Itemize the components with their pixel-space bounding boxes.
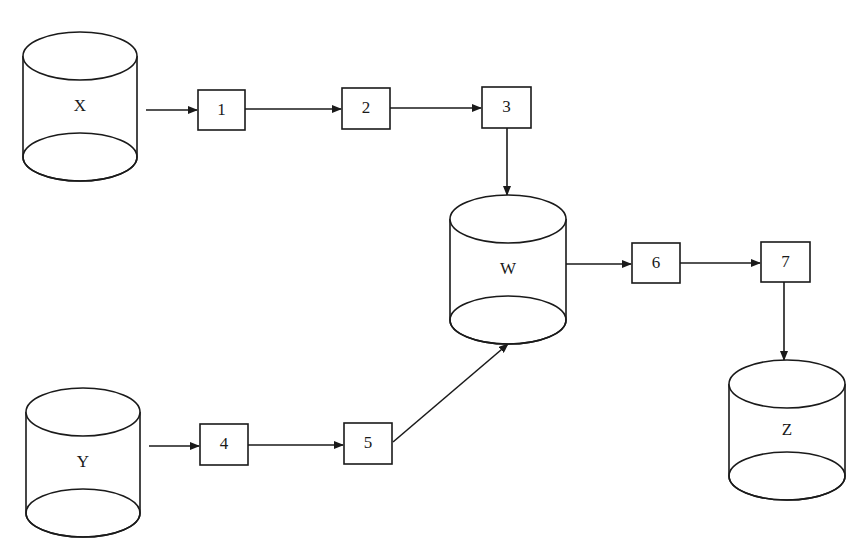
process-label: 1 [217, 100, 226, 119]
data-store-label: Y [77, 452, 89, 471]
process-box-3: 3 [482, 87, 531, 128]
process-box-1: 1 [198, 90, 245, 130]
data-store-w: W [450, 195, 566, 344]
arrow-5-to-w [393, 344, 508, 442]
process-box-2: 2 [342, 88, 390, 129]
cylinder-top [26, 388, 140, 436]
process-label: 4 [220, 434, 229, 453]
process-label: 2 [362, 98, 371, 117]
data-store-label: X [74, 96, 86, 115]
cylinder-top [23, 32, 137, 80]
data-store-label: W [500, 259, 517, 278]
process-label: 3 [502, 97, 511, 116]
process-box-7: 7 [761, 242, 810, 282]
process-label: 7 [781, 252, 790, 271]
cylinder-top [729, 360, 845, 408]
data-store-z: Z [729, 360, 845, 500]
data-flow-diagram: XYWZ 1234567 [0, 0, 864, 560]
process-box-6: 6 [632, 243, 680, 283]
process-label: 6 [652, 253, 661, 272]
data-store-x: X [23, 32, 137, 181]
process-label: 5 [364, 433, 373, 452]
process-box-5: 5 [344, 423, 392, 464]
process-box-4: 4 [200, 424, 248, 465]
cylinder-top [450, 195, 566, 243]
data-store-label: Z [782, 420, 792, 439]
data-store-y: Y [26, 388, 140, 537]
